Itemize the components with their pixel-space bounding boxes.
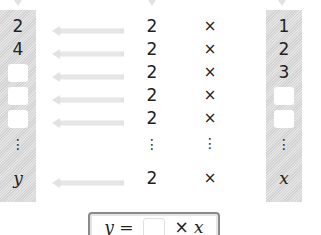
formula-box: y = × x (88, 212, 220, 235)
times-sign: × (198, 15, 222, 37)
left-arrow-icon (52, 90, 124, 100)
y-value: 4 (0, 38, 36, 60)
factor-value: 2 (140, 61, 164, 83)
x-value-text: 2 (279, 39, 290, 59)
x-value[interactable] (266, 107, 302, 129)
formula-x: x (194, 217, 204, 235)
times-sign-text: × (204, 109, 217, 127)
factor-value-text: 2 (147, 39, 158, 59)
blank-input-box[interactable] (274, 110, 294, 128)
factor-value-text: 2 (147, 62, 158, 82)
factor-value: 2 (140, 84, 164, 106)
times-sign: × (198, 38, 222, 60)
y-value[interactable] (0, 107, 36, 129)
mapping-row: 2×3 (0, 61, 321, 83)
factor-value: 2 (140, 107, 164, 129)
top-marker-middle (148, 0, 156, 6)
times-sign-text: × (204, 169, 217, 187)
times-sign: ⋮ (198, 132, 222, 154)
left-arrow-icon (52, 173, 124, 183)
blank-input-box[interactable] (8, 87, 28, 105)
formula-blank-input[interactable] (143, 218, 165, 235)
x-value: 2 (266, 38, 302, 60)
mapping-row: y2×x (0, 167, 321, 189)
y-value: y (0, 167, 36, 189)
mapping-row: 2× (0, 107, 321, 129)
y-value-text: 2 (13, 16, 24, 36)
mapping-row: 42×2 (0, 38, 321, 60)
y-value-text: 4 (13, 39, 24, 59)
y-value: 2 (0, 15, 36, 37)
times-sign: × (198, 167, 222, 189)
x-value: x (266, 167, 302, 189)
times-sign-text: ⋮ (203, 137, 217, 147)
x-value-text: 1 (279, 16, 290, 36)
times-sign: × (198, 84, 222, 106)
top-marker-right (278, 0, 286, 6)
x-value-text: x (279, 168, 289, 188)
times-sign: × (198, 107, 222, 129)
x-value: 3 (266, 61, 302, 83)
y-value-text: y (13, 168, 23, 188)
factor-value-text: 2 (147, 85, 158, 105)
factor-value: 2 (140, 15, 164, 37)
factor-value-text: 2 (147, 108, 158, 128)
x-value: 1 (266, 15, 302, 37)
top-marker-left (14, 0, 22, 6)
factor-value: 2 (140, 38, 164, 60)
y-value: ⋮ (0, 132, 36, 154)
y-value[interactable] (0, 84, 36, 106)
times-sign-text: × (204, 63, 217, 81)
left-arrow-icon (52, 67, 124, 77)
left-arrow-icon (52, 113, 124, 123)
factor-value: ⋮ (140, 132, 164, 154)
x-value-text: 3 (279, 62, 290, 82)
blank-input-box[interactable] (274, 87, 294, 105)
y-value[interactable] (0, 61, 36, 83)
x-value[interactable] (266, 84, 302, 106)
times-sign-text: × (204, 40, 217, 58)
x-value: ⋮ (266, 132, 302, 154)
factor-value-text: ⋮ (145, 138, 159, 148)
formula-lhs: y = (104, 217, 133, 235)
times-sign: × (198, 61, 222, 83)
blank-input-box[interactable] (8, 64, 28, 82)
y-value-text: ⋮ (11, 138, 25, 148)
blank-input-box[interactable] (8, 110, 28, 128)
left-arrow-icon (52, 44, 124, 54)
x-value-text: ⋮ (277, 138, 291, 148)
mapping-row: 2× (0, 84, 321, 106)
mapping-row: 22×1 (0, 15, 321, 37)
factor-value-text: 2 (147, 16, 158, 36)
times-sign-text: × (204, 86, 217, 104)
mapping-row: ⋮⋮⋮⋮ (0, 132, 321, 154)
factor-value-text: 2 (147, 168, 158, 188)
times-sign-text: × (204, 17, 217, 35)
left-arrow-icon (52, 21, 124, 31)
factor-value: 2 (140, 167, 164, 189)
formula-times: × (174, 217, 188, 235)
